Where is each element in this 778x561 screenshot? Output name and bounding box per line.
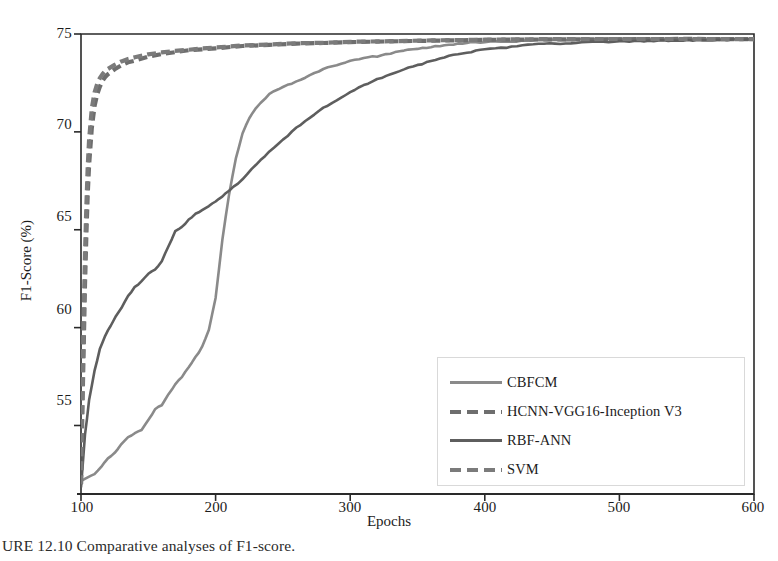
x-axis-title: Epochs — [0, 513, 778, 530]
y-tick-label-70: 70 — [38, 116, 72, 133]
legend-swatch-hcnn-vgg16-inception-v3 — [450, 405, 502, 419]
legend-item-cbfcm[interactable]: CBFCM — [438, 368, 744, 397]
legend-label-rbf-ann: RBF-ANN — [507, 432, 571, 449]
legend-swatch-rbf-ann — [450, 434, 502, 448]
figure-container: 75 70 65 60 55 100 200 300 400 500 600 E… — [0, 0, 778, 561]
legend-swatch-cbfcm — [450, 376, 502, 390]
legend-item-rbf-ann[interactable]: RBF-ANN — [438, 426, 744, 455]
y-tick-label-55: 55 — [38, 392, 72, 409]
chart-legend: CBFCM HCNN-VGG16-Inception V3 RBF-ANN SV… — [437, 357, 745, 486]
legend-item-hcnn-vgg16-inception-v3[interactable]: HCNN-VGG16-Inception V3 — [438, 397, 744, 426]
legend-item-svm[interactable]: SVM — [438, 455, 744, 484]
legend-label-hcnn-vgg16-inception-v3: HCNN-VGG16-Inception V3 — [507, 403, 682, 420]
y-axis-title: F1-Score (%) — [18, 191, 35, 331]
y-tick-label-75: 75 — [38, 25, 72, 42]
legend-label-cbfcm: CBFCM — [507, 374, 557, 391]
legend-label-svm: SVM — [507, 461, 539, 478]
y-tick-label-65: 65 — [38, 208, 72, 225]
legend-swatch-svm — [450, 463, 502, 477]
figure-caption: URE 12.10 Comparative analyses of F1-sco… — [2, 537, 776, 561]
y-tick-label-60: 60 — [38, 301, 72, 318]
